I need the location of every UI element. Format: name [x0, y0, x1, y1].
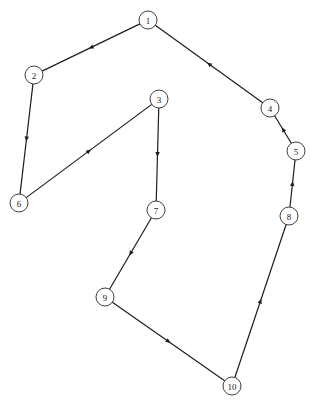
edge-10-to-8 [235, 225, 286, 378]
node-label: 8 [287, 212, 292, 222]
edge-2-to-6 [20, 84, 33, 194]
node-8: 8 [280, 207, 298, 225]
node-label: 1 [146, 16, 151, 26]
node-2: 2 [25, 66, 43, 84]
node-label: 3 [157, 95, 162, 105]
node-10: 10 [223, 377, 241, 395]
edge-8-to-5 [290, 160, 295, 207]
node-label: 7 [154, 206, 159, 216]
arrow-icon [155, 152, 159, 157]
node-4: 4 [261, 99, 279, 117]
node-label: 6 [17, 199, 22, 209]
nodes-layer: 12345678910 [10, 11, 305, 395]
edge-3-to-7 [155, 108, 159, 201]
edge-7-to-9 [110, 218, 152, 289]
node-label: 5 [294, 147, 299, 157]
node-7: 7 [147, 201, 165, 219]
node-9: 9 [96, 288, 114, 306]
arrow-icon [165, 338, 170, 343]
node-5: 5 [287, 142, 305, 160]
arrow-icon [258, 299, 262, 304]
node-3: 3 [150, 90, 168, 108]
edge-9-to-10 [112, 302, 224, 381]
edge-5-to-4 [275, 116, 292, 144]
edge-6-to-3 [26, 104, 152, 197]
node-label: 4 [268, 104, 273, 114]
node-label: 2 [32, 71, 37, 81]
edge-1-to-2 [42, 24, 140, 71]
node-label: 10 [228, 382, 238, 392]
edge-4-to-1 [155, 25, 262, 102]
tour-graph-diagram: 12345678910 [0, 0, 310, 403]
node-1: 1 [139, 11, 157, 29]
node-6: 6 [10, 194, 28, 212]
node-label: 9 [103, 293, 108, 303]
